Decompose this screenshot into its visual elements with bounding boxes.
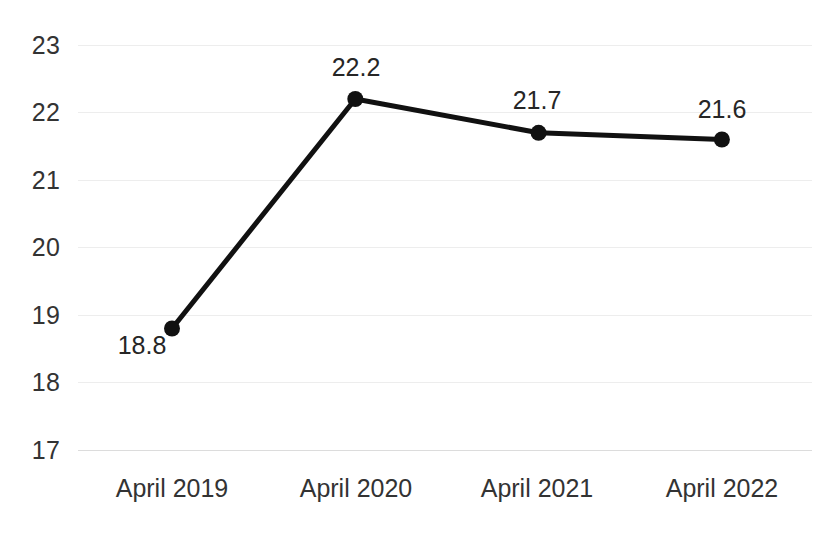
data-point-marker (531, 125, 547, 141)
x-axis-tick-label: April 2022 (622, 474, 822, 502)
x-axis-tick-label: April 2021 (437, 474, 637, 502)
plot-area (0, 0, 838, 542)
data-label: 22.2 (276, 55, 436, 80)
data-point-marker (714, 132, 730, 148)
data-point-marker (347, 91, 363, 107)
data-label: 18.8 (62, 333, 222, 358)
series-markers (164, 91, 730, 337)
x-axis-tick-label: April 2020 (256, 474, 456, 502)
data-label: 21.6 (642, 97, 802, 122)
line-chart: 23 22 21 20 19 18 17 18.8 22.2 21.7 21.6… (0, 0, 838, 542)
x-axis-tick-label: April 2019 (72, 474, 272, 502)
data-label: 21.7 (457, 88, 617, 113)
series-line (172, 99, 722, 329)
